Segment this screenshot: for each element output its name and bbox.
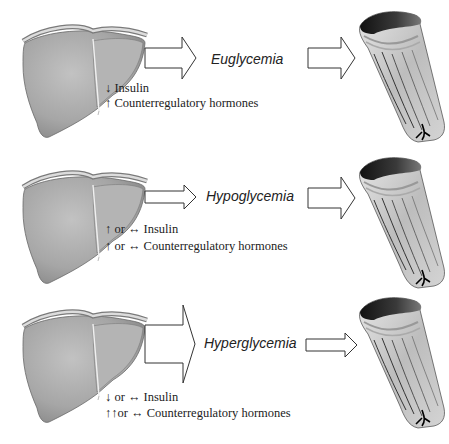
arrow-icon-liver-to-state [144,36,200,80]
state-label: Euglycemia [211,51,283,67]
hormone-change-counterregulatory: ↑ Counterregulatory hormones [105,96,258,111]
arrow-icon-liver-to-state [144,304,200,384]
state-label: Hypoglycemia [206,188,294,204]
hormone-change-counterregulatory: ↑ or ↔ Counterregulatory hormones [105,239,288,254]
hormone-change-insulin: ↓ Insulin [105,81,149,96]
row-hypoglycemia: Hypoglycemia ↑ or ↔ Insulin ↑ or ↔ Count… [0,148,449,288]
arrow-icon-state-to-muscle [307,36,357,80]
row-hyperglycemia: Hyperglycemia ↓ or ↔ Insulin ↑↑or ↔ Coun… [0,288,449,444]
muscle-image [360,12,449,148]
state-label: Hyperglycemia [204,335,297,351]
hormone-change-insulin: ↑ or ↔ Insulin [105,222,178,237]
arrow-icon-state-to-muscle [307,176,357,220]
arrow-icon-liver-to-state [144,184,200,210]
arrow-icon-state-to-muscle [305,332,361,358]
muscle-image [360,158,449,294]
row-euglycemia: Euglycemia ↓ Insulin ↑ Counterregulatory… [0,0,449,148]
muscle-image [360,298,449,434]
hormone-change-counterregulatory: ↑↑or ↔ Counterregulatory hormones [105,406,291,421]
hormone-change-insulin: ↓ or ↔ Insulin [105,390,178,405]
